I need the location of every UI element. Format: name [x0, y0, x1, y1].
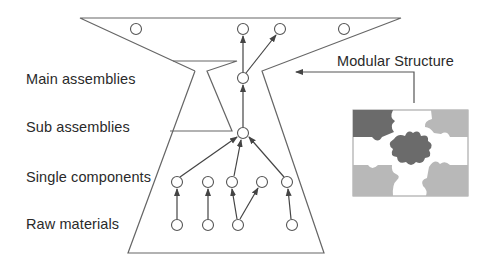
level-label-sub-assemblies: Sub assemblies — [26, 119, 130, 135]
node-single-3 — [227, 177, 238, 188]
level-label-main-assemblies: Main assemblies — [26, 71, 136, 87]
node-single-4 — [257, 177, 268, 188]
node-single-5 — [282, 177, 293, 188]
node-single-2 — [203, 177, 214, 188]
node-top-3 — [275, 24, 286, 35]
node-single-1 — [172, 177, 183, 188]
node-sub — [238, 128, 249, 139]
callout-arrow — [296, 72, 414, 103]
callout-label-modular-structure: Modular Structure — [337, 53, 454, 69]
modular-structure-diagram — [0, 0, 491, 273]
node-top-4 — [339, 24, 350, 35]
node-raw-2 — [203, 220, 214, 231]
node-raw-3 — [233, 220, 244, 231]
node-top-1 — [131, 24, 142, 35]
node-raw-1 — [172, 220, 183, 231]
node-top-2 — [238, 24, 249, 35]
level-label-single-components: Single components — [26, 169, 151, 185]
nodes — [131, 24, 350, 231]
node-main — [238, 73, 249, 84]
puzzle-image — [353, 110, 468, 196]
level-label-raw-materials: Raw materials — [26, 216, 119, 232]
node-raw-4 — [287, 220, 298, 231]
